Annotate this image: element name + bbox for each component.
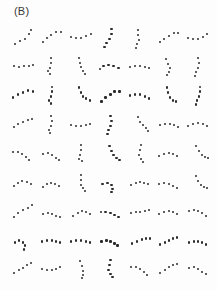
stimulus-dot xyxy=(136,240,138,242)
stimulus-dot xyxy=(30,29,32,31)
stimulus-dot xyxy=(206,33,208,35)
stimulus-dot xyxy=(173,32,175,34)
stimulus-dot xyxy=(113,242,115,244)
stimulus-dot xyxy=(107,129,109,131)
stimulus-dot xyxy=(138,154,140,156)
dot-pattern-cell xyxy=(12,143,42,171)
stimulus-dot xyxy=(108,38,110,40)
stimulus-dot xyxy=(187,37,189,39)
dot-pattern-cell xyxy=(158,86,188,114)
stimulus-dot xyxy=(158,183,160,185)
dot-pattern-cell xyxy=(100,258,130,286)
stimulus-dot xyxy=(28,33,30,35)
stimulus-dot xyxy=(207,157,209,159)
dot-pattern-cell xyxy=(41,230,71,258)
stimulus-dot xyxy=(55,215,57,217)
dot-pattern-cell xyxy=(70,28,100,56)
stimulus-dot xyxy=(163,153,165,155)
stimulus-dot xyxy=(103,46,105,48)
stimulus-dot xyxy=(166,86,168,88)
stimulus-dot xyxy=(110,28,112,30)
stimulus-dot xyxy=(51,120,53,122)
stimulus-dot xyxy=(109,125,111,127)
dot-pattern-cell xyxy=(70,201,100,229)
stimulus-dot xyxy=(168,183,170,185)
dot-pattern-cell xyxy=(100,28,130,56)
dot-pattern-cell xyxy=(12,201,42,229)
dot-pattern-cell xyxy=(12,57,42,85)
stimulus-dot xyxy=(159,243,161,245)
stimulus-dot xyxy=(82,70,84,72)
stimulus-dot xyxy=(159,272,161,274)
stimulus-dot xyxy=(110,33,112,35)
stimulus-dot xyxy=(201,271,203,273)
stimulus-dot xyxy=(187,125,189,127)
stimulus-dot xyxy=(31,118,33,120)
stimulus-dot xyxy=(59,241,61,243)
stimulus-dot xyxy=(115,157,117,159)
stimulus-dot xyxy=(146,274,148,276)
stimulus-dot xyxy=(145,127,147,129)
stimulus-dot xyxy=(14,43,16,45)
stimulus-dot xyxy=(109,259,111,261)
stimulus-dot xyxy=(166,74,168,76)
stimulus-dot xyxy=(117,67,119,69)
stimulus-dot xyxy=(75,37,77,39)
stimulus-dot xyxy=(176,236,178,238)
stimulus-dot xyxy=(197,122,199,124)
stimulus-dot xyxy=(55,157,57,159)
stimulus-dot xyxy=(13,65,15,67)
stimulus-dot xyxy=(46,37,48,39)
stimulus-dot xyxy=(13,185,15,187)
stimulus-dot xyxy=(47,70,49,72)
stimulus-dot xyxy=(136,43,138,45)
stimulus-dot xyxy=(102,65,104,67)
dot-pattern-cell xyxy=(70,57,100,85)
stimulus-dot xyxy=(116,244,118,246)
stimulus-dot xyxy=(135,182,137,184)
dot-pattern-cell xyxy=(41,57,71,85)
stimulus-dot xyxy=(137,34,139,36)
dot-pattern-cell xyxy=(158,201,188,229)
stimulus-dot xyxy=(55,240,57,242)
stimulus-dot xyxy=(90,33,92,35)
stimulus-dot xyxy=(168,210,170,212)
stimulus-dot xyxy=(41,240,43,242)
stimulus-dot xyxy=(165,58,167,60)
stimulus-dot xyxy=(23,65,25,67)
stimulus-dot xyxy=(195,71,197,73)
stimulus-dot xyxy=(59,216,61,218)
stimulus-dot xyxy=(46,239,48,241)
stimulus-dot xyxy=(54,183,56,185)
stimulus-dot xyxy=(167,91,169,93)
stimulus-dot xyxy=(22,267,24,269)
stimulus-dot xyxy=(78,158,80,160)
stimulus-dot xyxy=(81,160,83,162)
stimulus-dot xyxy=(108,145,110,147)
stimulus-dot xyxy=(139,211,141,213)
stimulus-dot xyxy=(46,269,48,271)
dot-pattern-cell xyxy=(100,114,130,142)
stimulus-dot xyxy=(172,185,174,187)
stimulus-dot xyxy=(188,210,190,212)
dot-pattern-cell xyxy=(70,86,100,114)
stimulus-dot xyxy=(188,267,190,269)
stimulus-dot xyxy=(17,182,19,184)
stimulus-dot xyxy=(80,179,82,181)
dot-pattern-cell xyxy=(100,201,130,229)
stimulus-dot xyxy=(80,91,82,93)
stimulus-dot xyxy=(50,115,52,117)
figure-panel: (B) xyxy=(0,0,217,290)
stimulus-dot xyxy=(110,191,112,193)
stimulus-dot xyxy=(144,210,146,212)
stimulus-dot xyxy=(51,213,53,215)
stimulus-dot xyxy=(17,212,19,214)
stimulus-dot xyxy=(80,149,82,151)
stimulus-dot xyxy=(82,95,84,97)
stimulus-dot xyxy=(198,150,200,152)
stimulus-dot xyxy=(80,66,82,68)
stimulus-dot xyxy=(70,36,72,38)
dot-pattern-cell xyxy=(70,172,100,200)
stimulus-dot xyxy=(80,144,82,146)
dot-pattern-cell xyxy=(12,28,42,56)
